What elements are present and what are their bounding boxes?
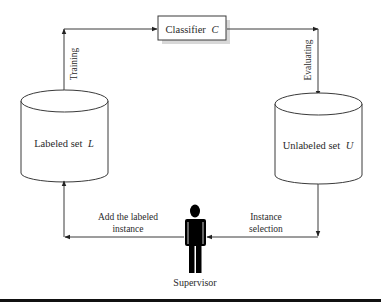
unlabeled-set-cylinder: Unlabeled set U <box>275 93 362 184</box>
active-learning-diagram: Classifier C Training Evaluating Labeled… <box>0 0 381 306</box>
labeled-set-symbol: L <box>87 138 94 149</box>
classifier-label: Classifier <box>166 24 207 35</box>
training-edge: Training <box>64 29 157 95</box>
svg-text:Classifier C: Classifier C <box>166 24 220 35</box>
labeled-set-cylinder: Labeled set L <box>21 90 108 182</box>
add-labeled-label-1: Add the labeled <box>98 212 158 222</box>
classifier-node: Classifier C <box>158 16 230 44</box>
evaluating-edge: Evaluating <box>227 29 318 96</box>
instance-selection-label-1: Instance <box>250 212 282 222</box>
classifier-symbol: C <box>211 24 219 35</box>
evaluating-label: Evaluating <box>303 39 313 80</box>
add-labeled-edge: Add the labeled instance <box>64 181 184 237</box>
unlabeled-set-label: Unlabeled set <box>283 140 341 151</box>
add-labeled-label-2: instance <box>112 224 143 234</box>
supervisor-label: Supervisor <box>173 277 217 288</box>
supervisor-node: Supervisor <box>173 205 217 289</box>
instance-selection-label-2: selection <box>249 224 283 234</box>
training-label: Training <box>69 48 79 81</box>
bottom-rule <box>0 299 381 302</box>
instance-selection-edge: Instance selection <box>207 184 318 237</box>
labeled-set-label: Labeled set <box>34 138 82 149</box>
